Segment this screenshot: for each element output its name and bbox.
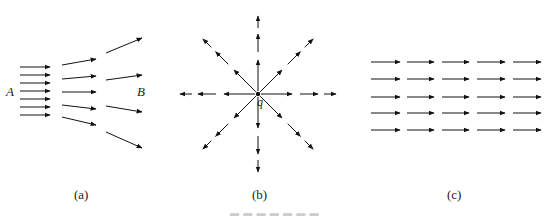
radial-field-arrow (260, 96, 282, 118)
field-arrow (62, 59, 96, 65)
radial-field-arrow (260, 70, 282, 92)
caption-panel-b: (b) (252, 187, 267, 203)
radial-field-arrow (305, 141, 313, 149)
field-arrow (106, 38, 142, 53)
caption-panel-c: (c) (447, 187, 461, 203)
panel-c-uniform-field (371, 62, 541, 130)
radial-field-arrow (203, 141, 211, 149)
radial-field-arrow (234, 96, 256, 118)
radial-field-arrow (288, 124, 301, 137)
field-arrow (106, 106, 142, 112)
radial-field-arrow (288, 52, 301, 65)
caption-panel-a: (a) (74, 187, 88, 203)
radial-field-arrow (216, 52, 229, 65)
label-charge-q: q (257, 95, 263, 110)
radial-field-arrow (203, 39, 211, 47)
field-arrow (62, 76, 96, 79)
radial-field-arrow (234, 70, 256, 92)
radial-field-arrow (305, 39, 313, 47)
field-lines-figure (0, 0, 551, 217)
figure-caption: ▬ ▬ ▬ ▬ ▬ ▬ ▬ (230, 208, 320, 217)
panel-a-diverging-field (20, 38, 142, 148)
field-arrow (106, 132, 142, 148)
field-arrow (62, 105, 96, 109)
panel-b-radial-field (180, 16, 336, 172)
label-b-point: B (137, 84, 145, 100)
radial-field-arrow (216, 124, 229, 137)
field-arrow (106, 75, 142, 80)
label-a-point: A (6, 84, 14, 100)
field-arrow (62, 117, 96, 125)
